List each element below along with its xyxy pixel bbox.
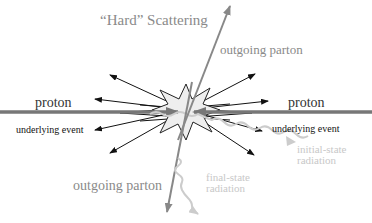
fsr-line2: radiation: [206, 183, 250, 194]
isr-line2: radiation: [297, 155, 346, 166]
proton-left-label: proton: [35, 96, 72, 110]
underlying-event-left-label: underlying event: [16, 125, 83, 135]
hard-scattering-diagram: “Hard” Scattering outgoing parton outgoi…: [0, 0, 372, 223]
diagram-title: “Hard” Scattering: [100, 13, 208, 28]
proton-right-label: proton: [288, 96, 325, 110]
final-state-radiation-label: final-state radiation: [206, 172, 250, 194]
outgoing-parton-top-label: outgoing parton: [220, 43, 303, 56]
final-state-radiation: [175, 158, 198, 214]
underlying-event-right-label: underlying event: [272, 124, 339, 134]
outgoing-parton-bottom-label: outgoing parton: [73, 179, 162, 193]
diagram-graphics: [0, 0, 372, 223]
initial-state-radiation-label: initial-state radiation: [297, 144, 346, 166]
